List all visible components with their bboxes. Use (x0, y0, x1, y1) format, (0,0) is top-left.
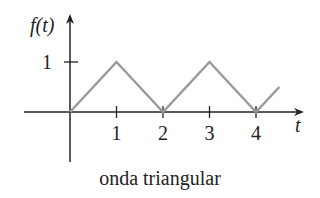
x-axis-label: t (295, 114, 301, 136)
chart-caption: onda triangular (0, 167, 320, 190)
x-tick-label: 2 (158, 122, 168, 144)
y-tick-label: 1 (42, 51, 52, 73)
y-axis-label: f(t) (30, 14, 55, 37)
x-tick-label: 3 (205, 122, 215, 144)
x-tick-label: 4 (251, 122, 261, 144)
x-tick-label: 1 (112, 122, 122, 144)
y-ticks: 1 (42, 51, 78, 73)
triangular-wave-line (70, 62, 279, 112)
